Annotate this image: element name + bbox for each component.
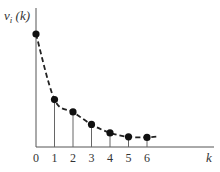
x-tick-label: 4 [107,151,113,165]
x-tick-label: 0 [33,151,39,165]
x-tick-label: 3 [89,151,95,165]
data-point [88,121,95,128]
stems [55,100,148,147]
data-point [32,30,39,37]
x-tick-label: 5 [126,151,132,165]
y-axis-label: νi (k) [4,8,30,25]
chart: 0123456 νi (k) k [0,0,220,172]
data-point [69,108,76,115]
x-tick-label: 1 [52,151,58,165]
data-point [106,129,113,136]
x-tick-labels: 0123456 [33,151,150,165]
data-point [125,133,132,140]
x-tick-label: 6 [144,151,150,165]
data-points [32,30,150,141]
data-point [51,96,58,103]
data-point [143,134,150,141]
x-axis-label: k [206,150,212,165]
x-tick-label: 2 [70,151,76,165]
